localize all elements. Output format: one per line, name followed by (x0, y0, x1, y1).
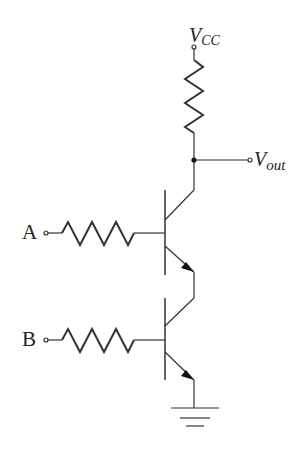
input-b-label: B (22, 327, 36, 352)
q1-emitter-arrow (181, 262, 194, 272)
input-b-resistor (62, 329, 134, 352)
input-a-label: A (22, 220, 37, 245)
vout-label: Vout (254, 148, 285, 171)
vcc-label: VCC (189, 24, 220, 47)
vout-label-sub: out (266, 157, 285, 173)
vcc-label-main: V (189, 24, 201, 46)
transistor-q2 (165, 298, 194, 408)
ground-symbol (171, 408, 219, 426)
input-a-resistor (62, 222, 134, 245)
vout-terminal (248, 158, 252, 162)
collector-resistor (185, 60, 203, 133)
vout-label-main: V (254, 148, 266, 170)
circuit-diagram (0, 0, 306, 452)
input-a-terminal (44, 231, 48, 235)
transistor-q1 (165, 190, 194, 298)
q2-emitter-arrow (181, 370, 194, 380)
vcc-label-sub: CC (201, 33, 220, 48)
input-b-terminal (44, 338, 48, 342)
